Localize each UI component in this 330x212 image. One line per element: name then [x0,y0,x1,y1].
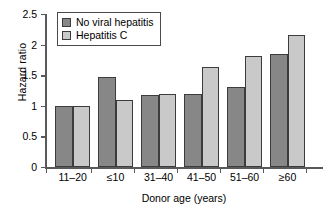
y-tick-label: 0 [13,162,37,173]
bar [245,56,263,167]
bar [159,94,177,167]
bar [227,87,245,167]
y-axis-tick-labels: 00.511.522.5 [13,0,37,212]
legend-item: Hepatitis C [62,29,154,41]
bar [141,95,159,167]
x-axis-title: Donor age (years) [45,192,323,204]
x-axis-tick-labels: 11–20≤1031–4041–5051–60≥60 [45,171,323,187]
bar [288,35,306,167]
x-tick-label: ≥60 [258,171,318,183]
hazard-ratio-bar-chart: Hazard ratio 00.511.522.5 11–20≤1031–404… [0,0,330,212]
y-tick-label: 2.5 [13,9,37,20]
legend-item: No viral hepatitis [62,17,154,29]
bar [73,106,91,167]
bar [116,100,134,167]
chart-legend: No viral hepatitisHepatitis C [57,12,161,46]
bar [270,54,288,167]
x-axis-line [45,167,323,169]
bar [184,94,202,167]
y-tick-label: 1 [13,101,37,112]
bar [55,106,73,167]
legend-swatch-no-viral-hepatitis [62,18,71,27]
bar [202,67,220,167]
y-tick-label: 2 [13,40,37,51]
y-tick-label: 0.5 [13,131,37,142]
bar [98,77,116,167]
y-tick-label: 1.5 [13,70,37,81]
legend-item-label: Hepatitis C [76,30,127,41]
legend-item-label: No viral hepatitis [76,17,154,28]
legend-swatch-hepatitis-c [62,31,71,40]
